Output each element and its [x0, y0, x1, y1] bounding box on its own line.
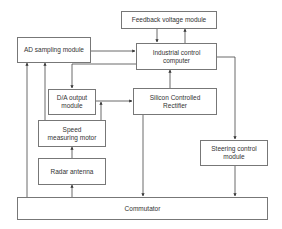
commutator: Commutator — [17, 197, 268, 220]
radar-antenna-label: Radar antenna — [50, 168, 93, 176]
feedback-voltage-module-label: Feedback voltage module — [132, 16, 206, 24]
ad-sampling-module-label: AD sampling module — [24, 46, 84, 54]
steering-control-module-label: Steering control module — [208, 145, 260, 161]
feedback-voltage-module: Feedback voltage module — [121, 11, 217, 29]
da-output-module-label: D/A output module — [55, 94, 89, 110]
commutator-label: Commutator — [125, 205, 161, 213]
radar-antenna: Radar antenna — [38, 158, 106, 185]
industrial-control-computer-label: Industrial control computer — [149, 49, 205, 65]
ad-sampling-module: AD sampling module — [17, 37, 91, 63]
industrial-control-computer: Industrial control computer — [136, 43, 217, 70]
da-output-module: D/A output module — [48, 89, 96, 115]
steering-control-module: Steering control module — [200, 140, 268, 166]
speed-measuring-motor-label: Speed measuring motor — [47, 126, 97, 142]
silicon-controlled-rectifier-label: Silicon Controlled Rectifier — [145, 94, 205, 110]
speed-measuring-motor: Speed measuring motor — [38, 120, 106, 147]
silicon-controlled-rectifier: Silicon Controlled Rectifier — [133, 88, 217, 115]
